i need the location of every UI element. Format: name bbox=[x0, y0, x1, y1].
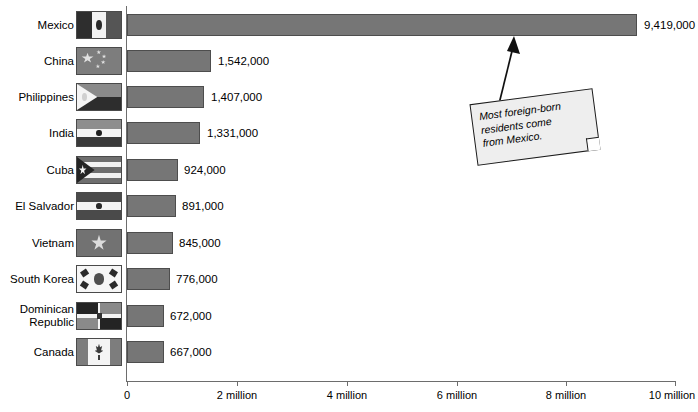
x-tick-label: 8 million bbox=[546, 389, 586, 401]
bar-dominican-republic bbox=[127, 305, 164, 327]
x-tick bbox=[457, 381, 458, 386]
bar-value-label: 891,000 bbox=[182, 200, 224, 212]
bar-value-label: 1,407,000 bbox=[211, 91, 262, 103]
x-tick-label: 4 million bbox=[327, 389, 367, 401]
bar-mexico bbox=[127, 14, 637, 36]
bar-south-korea bbox=[127, 268, 170, 290]
x-tick-label: 2 million bbox=[217, 389, 257, 401]
x-tick bbox=[347, 381, 348, 386]
flag-philippines-icon bbox=[76, 83, 122, 111]
bar-vietnam bbox=[127, 232, 173, 254]
flag-south-korea-icon bbox=[76, 265, 122, 293]
chart-row: Mexico 9,419,000 bbox=[0, 7, 698, 43]
x-tick-label: 6 million bbox=[437, 389, 477, 401]
bar-value-label: 845,000 bbox=[179, 237, 221, 249]
bar-value-label: 1,331,000 bbox=[207, 127, 258, 139]
category-label: El Salvador bbox=[0, 200, 74, 213]
bar-china bbox=[127, 50, 211, 72]
bar-canada bbox=[127, 341, 164, 363]
chart-row: Dominican Republic 672,000 bbox=[0, 298, 698, 334]
x-tick bbox=[237, 381, 238, 386]
category-label: India bbox=[0, 127, 74, 140]
category-label: China bbox=[0, 55, 74, 68]
bar-value-label: 776,000 bbox=[176, 273, 218, 285]
bar-chart: Mexico 9,419,000 China 1,542,000 Philipp… bbox=[0, 0, 698, 412]
chart-row: Cuba 924,000 bbox=[0, 152, 698, 188]
chart-row: Canada 667,000 bbox=[0, 334, 698, 370]
bar-el-salvador bbox=[127, 195, 176, 217]
bar-value-label: 924,000 bbox=[184, 164, 226, 176]
bar-value-label: 9,419,000 bbox=[644, 19, 695, 31]
bar-value-label: 672,000 bbox=[170, 310, 212, 322]
chart-row: China 1,542,000 bbox=[0, 43, 698, 79]
category-label: South Korea bbox=[0, 273, 74, 286]
flag-canada-icon bbox=[76, 338, 122, 366]
x-tick bbox=[566, 381, 567, 386]
bar-philippines bbox=[127, 86, 204, 108]
y-axis-line bbox=[126, 6, 127, 382]
x-tick-label: 0 bbox=[124, 389, 130, 401]
chart-row: El Salvador 891,000 bbox=[0, 188, 698, 224]
flag-india-icon bbox=[76, 119, 122, 147]
category-label: Canada bbox=[0, 346, 74, 359]
flag-el-salvador-icon bbox=[76, 192, 122, 220]
flag-mexico-icon bbox=[76, 11, 122, 39]
callout-folded-corner bbox=[586, 137, 601, 152]
bar-cuba bbox=[127, 159, 178, 181]
category-label: Mexico bbox=[0, 19, 74, 32]
x-tick bbox=[675, 381, 676, 386]
bar-value-label: 667,000 bbox=[170, 346, 212, 358]
x-tick-label: 10 million bbox=[649, 389, 695, 401]
category-label: Dominican Republic bbox=[0, 303, 74, 329]
category-label: Vietnam bbox=[0, 237, 74, 250]
category-label: Cuba bbox=[0, 164, 74, 177]
flag-vietnam-icon bbox=[76, 229, 122, 257]
x-axis-line bbox=[127, 381, 676, 382]
flag-cuba-icon bbox=[76, 156, 122, 184]
bar-india bbox=[127, 122, 200, 144]
chart-row: Vietnam 845,000 bbox=[0, 225, 698, 261]
x-tick bbox=[127, 381, 128, 386]
flag-dominican-republic-icon bbox=[76, 302, 122, 330]
chart-row: South Korea 776,000 bbox=[0, 261, 698, 297]
callout-text: Most foreign-born residents come from Me… bbox=[478, 96, 594, 151]
bar-value-label: 1,542,000 bbox=[218, 55, 269, 67]
category-label: Philippines bbox=[0, 91, 74, 104]
flag-china-icon bbox=[76, 47, 122, 75]
